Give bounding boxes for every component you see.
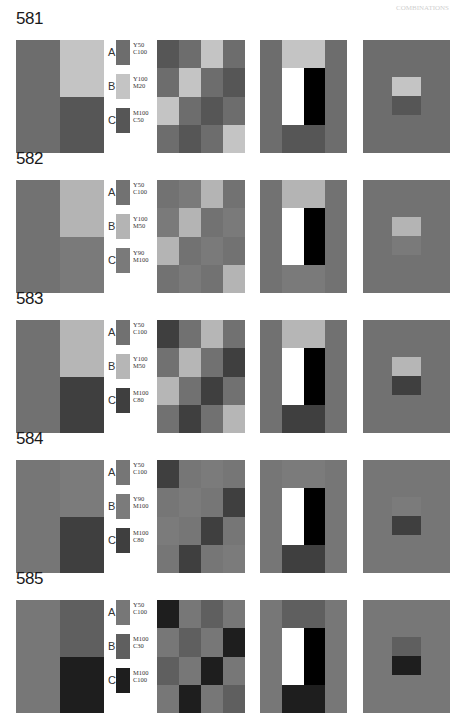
mosaic-cell [201, 517, 223, 545]
color-legend: AY50 C100BY100 M50CY90 M100 [106, 180, 154, 293]
legend-letter: A [108, 606, 115, 618]
mosaic-cell [157, 600, 179, 628]
legend-item: AY50 C100 [106, 320, 154, 346]
color-c-area [60, 377, 104, 434]
mosaic-cell [157, 208, 179, 236]
legend-letter: C [108, 394, 116, 406]
frame-top-b [282, 460, 325, 488]
combination-number: 584 [16, 430, 43, 448]
combination-number: 581 [16, 10, 43, 28]
legend-cmyk-spec: Y100 M50 [133, 355, 147, 369]
mosaic-cell [157, 460, 179, 488]
mosaic-cell [179, 517, 201, 545]
contrast-frame-block [260, 460, 347, 573]
mosaic-cell [201, 377, 223, 405]
checker-mosaic [157, 600, 245, 713]
mosaic-cell [157, 348, 179, 376]
mosaic-cell [157, 377, 179, 405]
color-bc-column [60, 40, 104, 153]
combination-number: 585 [16, 570, 43, 588]
mosaic-cell [223, 628, 245, 656]
mosaic-cell [157, 125, 179, 153]
mosaic-cell [223, 685, 245, 713]
mosaic-cell [201, 488, 223, 516]
frame-black-panel [304, 488, 325, 545]
frame-white-panel [282, 68, 304, 125]
color-legend: AY50 C100BY90 M100CM100 C80 [106, 460, 154, 573]
legend-item: AY50 C100 [106, 40, 154, 66]
legend-cmyk-spec: Y100 M20 [133, 75, 147, 89]
field-patch-block [363, 600, 450, 713]
frame-top-b [282, 320, 325, 348]
frame-bottom-c [282, 265, 325, 293]
frame-bottom-c [282, 545, 325, 573]
base-combination-block [16, 180, 104, 293]
field-patch-block [363, 40, 450, 153]
patch-c [392, 96, 421, 115]
contrast-frame-block [260, 600, 347, 713]
mosaic-cell [179, 488, 201, 516]
legend-item: AY50 C100 [106, 180, 154, 206]
patch-b [392, 357, 421, 376]
color-b-area [60, 40, 104, 97]
frame-black-panel [304, 628, 325, 685]
legend-cmyk-spec: Y50 C100 [133, 181, 147, 195]
patch-c [392, 656, 421, 675]
contrast-frame-block [260, 320, 347, 433]
mosaic-cell [223, 545, 245, 573]
frame-bottom-c [282, 125, 325, 153]
mosaic-cell [201, 237, 223, 265]
legend-item: CM100 C100 [106, 668, 154, 694]
mosaic-cell [201, 628, 223, 656]
checker-mosaic [157, 180, 245, 293]
legend-item: CM100 C80 [106, 528, 154, 554]
legend-cmyk-spec: Y100 M50 [133, 215, 147, 229]
mosaic-cell [179, 320, 201, 348]
legend-swatch [116, 354, 130, 379]
base-combination-block [16, 600, 104, 713]
mosaic-cell [179, 348, 201, 376]
mosaic-cell [179, 208, 201, 236]
legend-letter: C [108, 674, 116, 686]
legend-item: CY90 M100 [106, 248, 154, 274]
color-c-area [60, 237, 104, 294]
legend-item: BY100 M50 [106, 354, 154, 380]
color-legend: AY50 C100BY100 M50CM100 C80 [106, 320, 154, 433]
mosaic-cell [157, 237, 179, 265]
legend-cmyk-spec: M100 C80 [133, 389, 149, 403]
legend-swatch [116, 600, 130, 625]
color-a-area [16, 40, 60, 153]
legend-letter: A [108, 46, 115, 58]
patch-b [392, 217, 421, 236]
mosaic-cell [157, 657, 179, 685]
frame-bottom-c [282, 685, 325, 713]
mosaic-cell [179, 97, 201, 125]
frame-white-panel [282, 348, 304, 405]
legend-cmyk-spec: Y50 C100 [133, 41, 147, 55]
mosaic-cell [201, 208, 223, 236]
mosaic-cell [179, 685, 201, 713]
frame-top-b [282, 40, 325, 68]
legend-swatch [116, 528, 130, 553]
legend-swatch [116, 634, 130, 659]
mosaic-cell [201, 125, 223, 153]
legend-cmyk-spec: Y90 M100 [133, 249, 149, 263]
mosaic-cell [223, 488, 245, 516]
patch-b [392, 637, 421, 656]
color-a-area [16, 460, 60, 573]
legend-letter: B [108, 500, 115, 512]
color-bc-column [60, 460, 104, 573]
legend-swatch [116, 214, 130, 239]
mosaic-cell [201, 600, 223, 628]
frame-black-panel [304, 208, 325, 265]
frame-bottom-c [282, 405, 325, 433]
mosaic-cell [223, 68, 245, 96]
mosaic-cell [223, 460, 245, 488]
checker-mosaic [157, 40, 245, 153]
frame-white-panel [282, 488, 304, 545]
contrast-frame-block [260, 40, 347, 153]
legend-swatch [116, 40, 130, 65]
mosaic-cell [157, 685, 179, 713]
frame-black-panel [304, 348, 325, 405]
color-b-area [60, 600, 104, 657]
